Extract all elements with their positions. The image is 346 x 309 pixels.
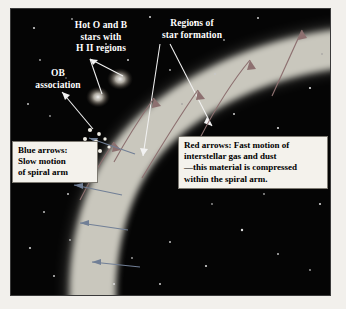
blue-arrow-2-head [74, 183, 83, 189]
ob-star [98, 149, 102, 153]
ob-star [107, 145, 110, 148]
caption-red-arrows: Red arrows: Fast motion of interstellar … [178, 136, 328, 189]
hii-region-blob-1 [107, 68, 133, 90]
label-hot-o-b-stars: Hot O and B stars with H II regions [55, 20, 147, 55]
label-regions-of-star-formation: Regions of star formation [144, 18, 240, 41]
ob-star [103, 137, 106, 140]
ob-star [88, 128, 92, 132]
pointer-ob-head [62, 92, 70, 100]
caption-blue-arrows: Blue arrows: Slow motion of spiral arm [12, 141, 98, 183]
figure-root: Hot O and B stars with H II regions Regi… [0, 0, 346, 309]
ob-star [97, 132, 101, 136]
label-ob-association: OB association [18, 68, 98, 91]
